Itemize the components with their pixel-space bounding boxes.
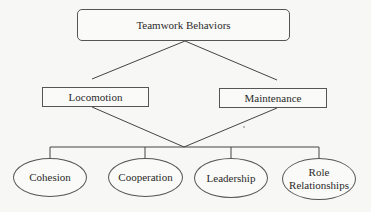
connector-root-to-maintenance bbox=[185, 41, 277, 80]
node-label-line2: Relationships bbox=[289, 179, 349, 192]
node-label-line1: Role bbox=[309, 166, 330, 179]
connector-locomotion-to-junction bbox=[92, 107, 184, 147]
node-cohesion: Cohesion bbox=[13, 158, 87, 197]
node-leadership: Leadership bbox=[194, 158, 268, 198]
node-label: Locomotion bbox=[69, 91, 123, 104]
node-label: Cohesion bbox=[29, 171, 71, 184]
node-cooperation: Cooperation bbox=[108, 158, 183, 197]
node-maintenance: Maintenance bbox=[219, 88, 327, 108]
node-teamwork-behaviors: Teamwork Behaviors bbox=[77, 9, 290, 41]
node-role-relationships: Role Relationships bbox=[282, 158, 356, 200]
node-label: Cooperation bbox=[118, 171, 172, 184]
connector-maintenance-to-junction bbox=[184, 108, 277, 147]
node-label: Teamwork Behaviors bbox=[136, 19, 230, 32]
node-label: Leadership bbox=[207, 172, 256, 185]
node-locomotion: Locomotion bbox=[42, 87, 149, 107]
node-label: Maintenance bbox=[245, 92, 302, 105]
diagram-canvas: Teamwork Behaviors Locomotion Maintenanc… bbox=[0, 0, 371, 212]
stray-dot bbox=[243, 126, 244, 127]
connector-root-to-locomotion bbox=[92, 41, 185, 79]
